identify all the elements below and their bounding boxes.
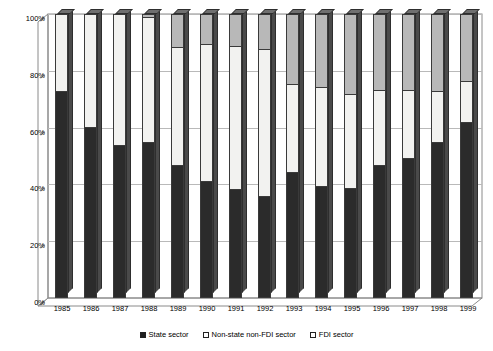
bar-segment-fdi-1996[interactable]: [373, 14, 386, 91]
bar-segment-nonstate-1997[interactable]: [402, 91, 415, 159]
bar-segment-state-1999[interactable]: [460, 123, 473, 298]
bar-side-face: [473, 9, 478, 293]
plot-area: 0%20%40%60%80%100% 198519861987198819891…: [0, 0, 493, 351]
x-tick-label: 1994: [309, 304, 337, 313]
y-tick-label: 40%: [0, 185, 45, 193]
x-tick-label: 1986: [77, 304, 105, 313]
x-tick-label: 1985: [48, 304, 76, 313]
bar-segment-nonstate-1990[interactable]: [200, 45, 213, 181]
bar-segment-nonstate-1998[interactable]: [431, 92, 444, 143]
bar-side-face: [213, 9, 218, 293]
bar-side-face: [97, 9, 102, 293]
legend-item-fdi[interactable]: FDI sector: [310, 330, 354, 339]
bar-side-face: [126, 9, 131, 293]
legend-label: Non-state non-FDI sector: [212, 330, 296, 339]
y-tick-label: 100%: [0, 15, 45, 23]
bar-segment-state-1989[interactable]: [171, 166, 184, 298]
x-tick-label: 1996: [367, 304, 395, 313]
bar-segment-nonstate-1999[interactable]: [460, 82, 473, 123]
legend-swatch-state-icon: [140, 332, 146, 338]
chart-legend: State sectorNon-state non-FDI sectorFDI …: [0, 330, 493, 339]
y-tick-label: 0%: [0, 299, 45, 307]
bar-segment-state-1992[interactable]: [258, 197, 271, 298]
legend-item-state[interactable]: State sector: [140, 330, 189, 339]
bar-segment-state-1991[interactable]: [229, 190, 242, 298]
bar-segment-state-1993[interactable]: [286, 173, 299, 298]
bar-segment-state-1996[interactable]: [373, 166, 386, 298]
bar-segment-fdi-1992[interactable]: [258, 14, 271, 50]
x-tick-label: 1995: [338, 304, 366, 313]
bar-side-face: [299, 9, 304, 293]
x-tick-label: 1991: [222, 304, 250, 313]
x-tick-label: 1999: [454, 304, 482, 313]
bar-side-face: [444, 9, 449, 293]
bar-segment-fdi-1994[interactable]: [315, 14, 328, 88]
bar-segment-state-1998[interactable]: [431, 143, 444, 298]
legend-swatch-fdi-icon: [310, 332, 316, 338]
x-tick-label: 1992: [251, 304, 279, 313]
bar-segment-nonstate-1995[interactable]: [344, 95, 357, 189]
x-tick-label: 1988: [135, 304, 163, 313]
bar-side-face: [271, 9, 276, 293]
bar-segment-fdi-1991[interactable]: [229, 14, 242, 47]
bar-segment-fdi-1990[interactable]: [200, 14, 213, 45]
bar-side-face: [357, 9, 362, 293]
bar-segment-nonstate-1985[interactable]: [55, 14, 68, 92]
bar-side-face: [328, 9, 333, 293]
bar-segment-state-1988[interactable]: [142, 143, 155, 298]
bar-segment-fdi-1988[interactable]: [142, 14, 155, 18]
bar-segment-nonstate-1992[interactable]: [258, 50, 271, 198]
x-tick-label: 1990: [193, 304, 221, 313]
bar-segment-fdi-1993[interactable]: [286, 14, 299, 85]
bar-segment-nonstate-1988[interactable]: [142, 18, 155, 143]
legend-label: FDI sector: [319, 330, 354, 339]
bar-segment-nonstate-1986[interactable]: [84, 14, 97, 128]
legend-item-nonstate[interactable]: Non-state non-FDI sector: [203, 330, 296, 339]
bar-side-face: [155, 9, 160, 293]
bar-side-face: [242, 9, 247, 293]
bar-segment-state-1995[interactable]: [344, 189, 357, 298]
bar-segment-state-1987[interactable]: [113, 146, 126, 298]
x-tick-label: 1989: [164, 304, 192, 313]
bar-segment-fdi-1997[interactable]: [402, 14, 415, 91]
bar-segment-nonstate-1989[interactable]: [171, 48, 184, 166]
bar-segment-nonstate-1993[interactable]: [286, 85, 299, 173]
x-tick-label: 1998: [425, 304, 453, 313]
bar-segment-fdi-1999[interactable]: [460, 14, 473, 82]
legend-swatch-nonstate-icon: [203, 332, 209, 338]
bar-segment-state-1985[interactable]: [55, 92, 68, 298]
bar-side-face: [68, 9, 73, 293]
bar-segment-nonstate-1994[interactable]: [315, 88, 328, 187]
bar-segment-state-1997[interactable]: [402, 159, 415, 298]
bar-segment-fdi-1995[interactable]: [344, 14, 357, 95]
y-tick-label: 60%: [0, 129, 45, 137]
y-tick-label: 80%: [0, 72, 45, 80]
bar-segment-nonstate-1987[interactable]: [113, 14, 126, 146]
bar-segment-state-1990[interactable]: [200, 182, 213, 298]
bar-side-face: [184, 9, 189, 293]
x-tick-label: 1993: [280, 304, 308, 313]
x-tick-label: 1997: [396, 304, 424, 313]
bar-segment-state-1994[interactable]: [315, 187, 328, 298]
legend-label: State sector: [149, 330, 189, 339]
bar-segment-state-1986[interactable]: [84, 128, 97, 298]
bar-segment-fdi-1998[interactable]: [431, 14, 444, 92]
bar-segment-fdi-1989[interactable]: [171, 14, 184, 48]
bar-side-face: [415, 9, 420, 293]
chart-root: 0%20%40%60%80%100% 198519861987198819891…: [0, 0, 493, 351]
x-tick-label: 1987: [106, 304, 134, 313]
bar-segment-nonstate-1996[interactable]: [373, 91, 386, 166]
bar-segment-nonstate-1991[interactable]: [229, 47, 242, 190]
y-tick-label: 20%: [0, 242, 45, 250]
bar-side-face: [386, 9, 391, 293]
